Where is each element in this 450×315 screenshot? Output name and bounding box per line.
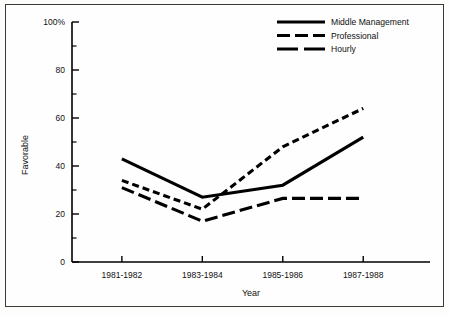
- x-axis-title: Year: [242, 288, 260, 298]
- x-tick-label: 1987-1988: [343, 270, 384, 280]
- x-axis-ticks: [122, 256, 363, 262]
- axis-lines: [72, 22, 430, 262]
- x-tick-label: 1983-1984: [182, 270, 223, 280]
- data-series-group: [122, 108, 363, 221]
- chart-figure: 020406080100% 1981-19821983-19841985-198…: [0, 0, 450, 315]
- y-tick-label: 100%: [43, 17, 65, 27]
- x-tick-label: 1981-1982: [102, 270, 143, 280]
- y-tick-label: 80: [56, 65, 66, 75]
- chart-legend: Middle ManagementProfessionalHourly: [277, 17, 409, 54]
- series-line-middle-management: [122, 137, 363, 197]
- legend-label-hourly: Hourly: [331, 44, 357, 54]
- line-chart: 020406080100% 1981-19821983-19841985-198…: [0, 0, 450, 315]
- y-tick-label: 20: [56, 209, 66, 219]
- y-axis-title: Favorable: [20, 135, 30, 175]
- x-tick-label: 1985-1986: [262, 270, 303, 280]
- x-axis-tick-labels: 1981-19821983-19841985-19861987-1988: [102, 270, 384, 280]
- y-tick-label: 0: [60, 257, 65, 267]
- y-tick-label: 60: [56, 113, 66, 123]
- y-tick-label: 40: [56, 161, 66, 171]
- legend-label-professional: Professional: [331, 31, 378, 41]
- y-axis-tick-labels: 020406080100%: [43, 17, 65, 267]
- legend-label-middle-management: Middle Management: [331, 17, 409, 27]
